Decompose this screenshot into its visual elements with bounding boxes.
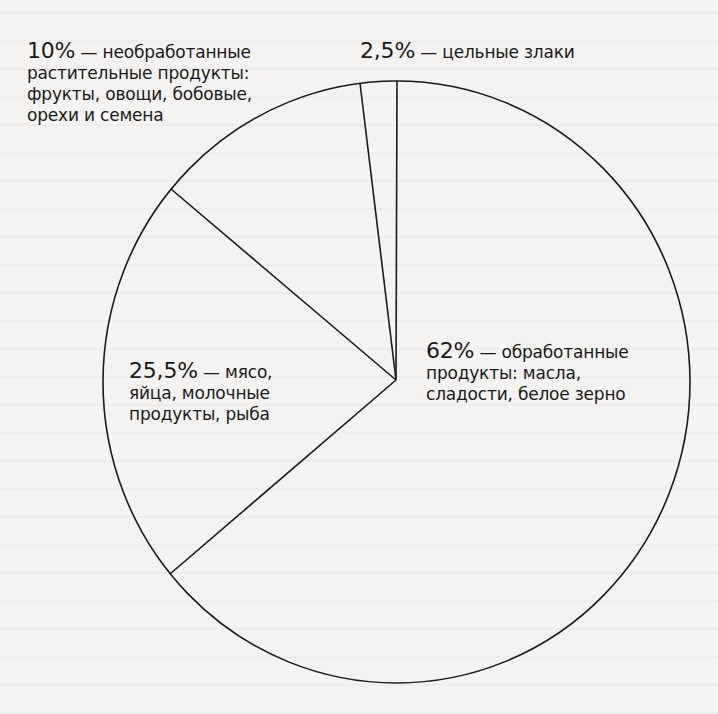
slice-label-text: продукты: масла, xyxy=(426,363,629,384)
slice-percent: 10% xyxy=(27,38,75,63)
slice-label-text: сладости, белое зерно xyxy=(426,384,629,405)
slice-label-text: яйца, молочные xyxy=(129,383,272,404)
slice-label-grains: 2,5% — цельные злаки xyxy=(360,40,575,63)
slice-label-processed: 62% — обработанные продукты: масла, слад… xyxy=(426,340,629,405)
slice-label-text: растительные продукты: xyxy=(27,63,252,84)
slice-label-text: — цельные злаки xyxy=(415,42,575,62)
slice-label-text: — обработанные xyxy=(474,342,628,362)
slice-divider-plants-grains xyxy=(360,83,396,380)
slice-label-text: — мясо, xyxy=(198,362,272,382)
slice-percent: 62% xyxy=(426,338,474,363)
slice-divider-animal-plants xyxy=(171,189,396,380)
slice-label-plants: 10% — необработанные растительные продук… xyxy=(27,40,252,126)
slice-percent: 2,5% xyxy=(360,38,415,63)
slice-label-text: продукты, рыба xyxy=(129,404,272,425)
slice-label-text: фрукты, овощи, бобовые, xyxy=(27,84,252,105)
slice-label-animal: 25,5% — мясо, яйца, молочные продукты, р… xyxy=(129,360,272,425)
slice-percent: 25,5% xyxy=(129,358,198,383)
slice-divider-grains-processed xyxy=(396,81,397,380)
slice-label-text: — необработанные xyxy=(75,42,250,62)
slice-label-text: орехи и семена xyxy=(27,105,252,126)
